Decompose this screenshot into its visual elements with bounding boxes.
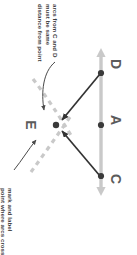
axis-arrowhead-bottom xyxy=(96,187,105,196)
point-A xyxy=(98,122,104,128)
annotation-arcs-note: arcs from C and D must be same distance … xyxy=(37,4,59,62)
arc-from-D xyxy=(33,79,72,137)
arrow-D-to-E xyxy=(62,74,100,120)
point-E xyxy=(53,122,59,128)
plotted-points xyxy=(53,70,104,179)
pointer-mark-note xyxy=(14,140,36,170)
arrow-C-to-E xyxy=(62,131,100,176)
point-C xyxy=(98,173,104,179)
point-D xyxy=(98,70,104,76)
point-label-C: C xyxy=(109,174,123,184)
point-label-D: D xyxy=(109,59,123,69)
point-label-E: E xyxy=(24,120,38,129)
measure-arrows xyxy=(62,74,100,176)
axis-arrowhead-top xyxy=(96,48,105,57)
annotation-pointers xyxy=(14,62,55,170)
annotation-mark-note: mark and label point where arcs cross xyxy=(0,188,14,255)
point-label-A: A xyxy=(109,115,123,125)
